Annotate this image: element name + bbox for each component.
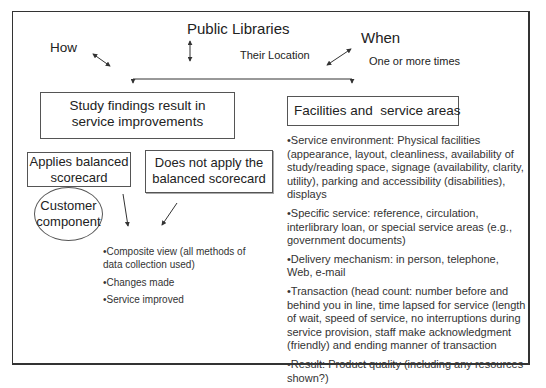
outcome-item: •Composite view (all methods of data col… <box>103 246 248 272</box>
customer-line-2: component <box>35 214 102 230</box>
facility-item: •Result: Product quality (including any … <box>287 358 527 385</box>
study-findings-line-2: service improvements <box>41 114 234 130</box>
applies-line-2: scorecard <box>28 170 130 186</box>
facility-item: •Transaction (head count: number before … <box>287 285 527 353</box>
outcome-item: •Changes made <box>103 277 248 290</box>
applies-scorecard-box: Applies balanced scorecard <box>27 152 131 187</box>
outcome-item: •Service improved <box>103 294 248 307</box>
when-label: When <box>361 29 400 46</box>
customer-line-1: Customer <box>35 198 102 214</box>
one-or-more-times-label: One or more times <box>369 55 460 67</box>
outcomes-list: •Composite view (all methods of data col… <box>103 246 248 312</box>
study-findings-box: Study findings result in service improve… <box>40 92 235 139</box>
facility-item: •Service environment: Physical facilitie… <box>287 134 527 202</box>
customer-component-ellipse: Customer component <box>34 187 103 241</box>
does-not-apply-box: Does not apply the balanced scorecard <box>145 150 273 193</box>
applies-line-1: Applies balanced <box>28 154 130 170</box>
public-libraries-label: Public Libraries <box>187 20 290 37</box>
study-findings-line-1: Study findings result in <box>41 98 234 114</box>
how-label: How <box>50 40 77 55</box>
facilities-list: •Service environment: Physical facilitie… <box>287 134 527 388</box>
does-not-apply-line-1: Does not apply the <box>146 155 272 171</box>
facilities-box: Facilities and service areas <box>287 96 459 126</box>
facility-item: •Delivery mechanism: in person, telephon… <box>287 253 527 280</box>
facilities-label: Facilities and service areas <box>294 103 461 118</box>
does-not-apply-line-2: balanced scorecard <box>146 171 272 187</box>
their-location-label: Their Location <box>240 49 310 61</box>
facility-item: •Specific service: reference, circulatio… <box>287 207 527 248</box>
